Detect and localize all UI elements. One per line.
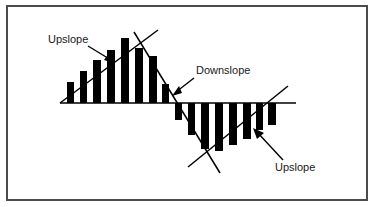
- histogram-bar: [201, 103, 209, 149]
- histogram-bar: [268, 103, 276, 125]
- figure-root: Upslope Downslope Upslope: [0, 0, 374, 207]
- histogram-bar: [135, 48, 143, 103]
- histogram-chart: Upslope Downslope Upslope: [0, 0, 374, 207]
- arrow-head-icon: [172, 86, 182, 96]
- histogram-bars-negative: [175, 103, 276, 151]
- histogram-bar: [93, 60, 101, 103]
- annotation-label-upslope-left: Upslope: [48, 33, 88, 45]
- leader-line: [257, 132, 283, 160]
- callout-downslope: [172, 78, 194, 96]
- annotation-label-downslope: Downslope: [196, 64, 250, 76]
- annotation-label-upslope-right: Upslope: [275, 161, 315, 173]
- callout-upslope-right: [253, 128, 283, 160]
- histogram-bar: [229, 103, 237, 145]
- histogram-bar: [121, 38, 129, 103]
- histogram-bars-positive: [67, 38, 169, 103]
